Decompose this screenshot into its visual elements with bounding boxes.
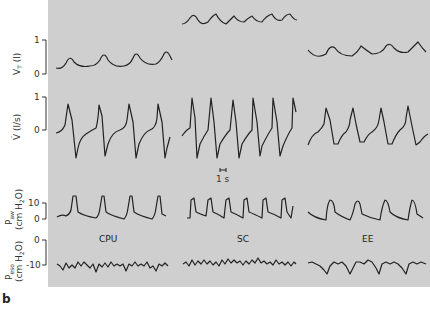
- paw-tick-10: 10: [28, 198, 40, 208]
- paw-unit: (cm H2O): [14, 189, 25, 230]
- paw-tick-0: 0: [34, 214, 40, 224]
- figure-label: b: [2, 292, 11, 306]
- vt-trace-cpu: [56, 52, 172, 68]
- paw-trace-cpu: [57, 196, 166, 219]
- condition-label-cpu: CPU: [99, 234, 117, 244]
- flow-tick-1: 1: [34, 92, 40, 102]
- condition-label-ee: EE: [362, 234, 374, 244]
- peso-trace-cpu: [57, 262, 168, 272]
- scale-bar: [220, 168, 226, 172]
- paw-trace-ee: [308, 200, 423, 220]
- vt-trace-sc: [182, 14, 297, 24]
- chart-svg: 1 0 1 0 10 0 0 -10 VT (l) V̇ (l/s) Paw (…: [0, 0, 430, 309]
- flow-axis: [42, 97, 46, 130]
- flow-trace-ee: [308, 106, 428, 145]
- scale-bar-label: 1 s: [216, 174, 230, 184]
- vt-trace-ee: [308, 42, 426, 56]
- peso-tick-neg10: -10: [26, 260, 41, 270]
- peso-trace-sc: [183, 258, 296, 266]
- vt-axis: [42, 40, 46, 74]
- paw-trace-sc: [187, 198, 293, 218]
- peso-unit: (cm H2O): [14, 241, 25, 282]
- flow-tick-0: 0: [34, 125, 40, 135]
- vt-tick-0: 0: [34, 69, 40, 79]
- condition-label-sc: SC: [237, 234, 249, 244]
- peso-tick-0: 0: [34, 235, 40, 245]
- flow-trace-cpu: [56, 104, 170, 158]
- peso-axis: [42, 240, 46, 265]
- flow-trace-sc: [182, 98, 296, 158]
- vt-label: VT (l): [12, 53, 23, 75]
- vt-tick-1: 1: [34, 35, 40, 45]
- paw-axis: [42, 203, 46, 219]
- flow-label: V̇ (l/s): [11, 114, 22, 140]
- peso-trace-ee: [308, 260, 426, 274]
